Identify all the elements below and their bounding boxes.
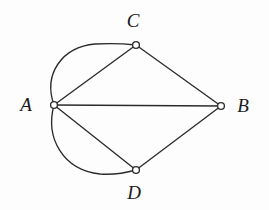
vertex-group <box>51 42 225 174</box>
vertex-a <box>51 102 58 109</box>
vertex-label-d: D <box>127 183 141 202</box>
edge-c-b <box>136 45 221 106</box>
vertex-d <box>133 167 140 174</box>
vertex-label-c: C <box>127 11 140 30</box>
vertex-c <box>133 42 140 49</box>
graph-figure: A B C D <box>0 0 269 210</box>
edge-a-d-curved <box>52 105 136 174</box>
vertex-label-b: B <box>237 96 249 115</box>
vertex-b <box>218 103 225 110</box>
edge-d-b <box>136 106 221 170</box>
vertex-label-a: A <box>20 95 32 114</box>
edge-a-c-curved <box>51 44 136 105</box>
graph-canvas <box>0 0 269 210</box>
edge-group <box>51 44 221 175</box>
edge-a-d-straight <box>54 105 136 170</box>
edge-a-b <box>54 105 221 106</box>
